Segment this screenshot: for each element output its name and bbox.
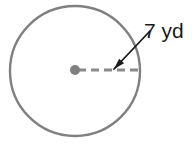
circle-radius-diagram: 7 yd bbox=[0, 0, 195, 144]
diagram-canvas: 7 yd bbox=[0, 0, 195, 144]
radius-measurement-label: 7 yd bbox=[144, 19, 184, 42]
center-dot bbox=[70, 65, 80, 75]
